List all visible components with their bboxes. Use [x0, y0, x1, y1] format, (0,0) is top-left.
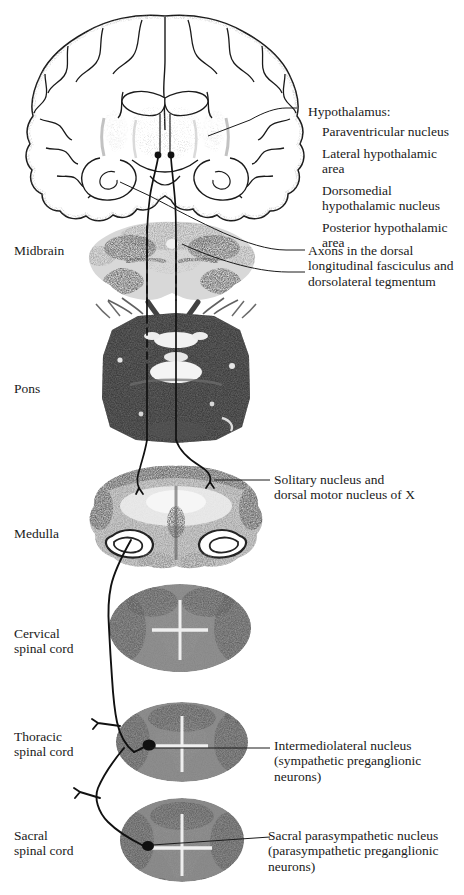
label-medulla: Medulla	[14, 526, 59, 541]
label-solitary-nucleus: Solitary nucleus and dorsal motor nucleu…	[274, 472, 415, 503]
figure-canvas: Midbrain Pons Medulla Cervical spinal co…	[0, 0, 464, 895]
midbrain-section	[84, 218, 260, 316]
medulla-section	[87, 462, 268, 574]
label-axons-dlf: Axons in the dorsal longitudinal fascicu…	[308, 243, 453, 289]
label-dorsomedial-hypothalamic-nucleus: Dorsomedial hypothalamic nucleus	[322, 183, 440, 214]
label-paraventricular-nucleus: Paraventricular nucleus	[322, 124, 449, 139]
label-lateral-hypothalamic-area: Lateral hypothalamic area	[322, 146, 437, 177]
spinal-descending-tract	[74, 540, 148, 846]
label-pons: Pons	[14, 381, 40, 396]
label-intermediolateral-nucleus: Intermediolateral nucleus (sympathetic p…	[274, 738, 421, 784]
pons-section	[96, 301, 258, 448]
cervical-cord-section	[102, 584, 258, 672]
intermediolateral-nucleus-marker	[143, 740, 156, 751]
label-thoracic-spinal-cord: Thoracic spinal cord	[14, 729, 74, 760]
label-sacral-parasympathetic-nucleus: Sacral parasympathetic nucleus (parasymp…	[268, 828, 439, 874]
label-sacral-spinal-cord: Sacral spinal cord	[14, 828, 74, 859]
label-midbrain: Midbrain	[14, 243, 64, 258]
cerebrum-coronal-section	[26, 15, 304, 220]
label-hypothalamus-heading: Hypothalamus:	[308, 104, 391, 119]
label-cervical-spinal-cord: Cervical spinal cord	[14, 626, 74, 657]
thoracic-cord-section	[110, 702, 254, 782]
